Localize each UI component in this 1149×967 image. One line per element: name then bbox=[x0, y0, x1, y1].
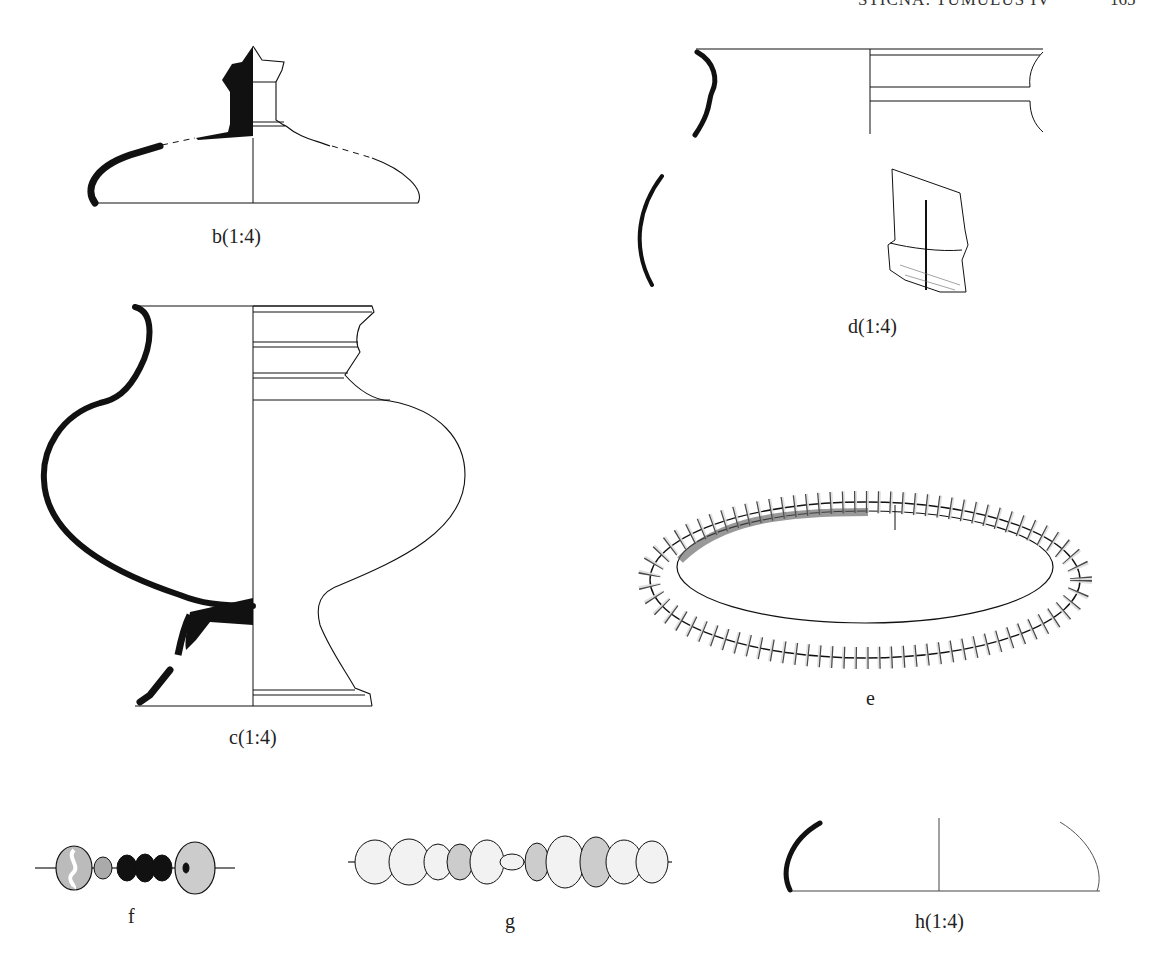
plate-drawings bbox=[0, 0, 1149, 967]
figure-d-fragments-drawing bbox=[640, 49, 1043, 292]
figure-g-caption: g bbox=[505, 910, 515, 933]
figure-b-lid-drawing bbox=[91, 46, 420, 203]
figure-d-caption: d(1:4) bbox=[848, 315, 897, 338]
figure-b-caption: b(1:4) bbox=[212, 225, 261, 248]
figure-h-bowl-drawing bbox=[786, 818, 1100, 891]
figure-g-beads-drawing bbox=[348, 836, 672, 888]
figure-c-vessel-drawing bbox=[44, 306, 465, 706]
figure-f-caption: f bbox=[128, 905, 135, 928]
figure-h-caption: h(1:4) bbox=[915, 910, 964, 933]
figure-c-caption: c(1:4) bbox=[229, 726, 277, 749]
figure-e-ring-drawing bbox=[649, 502, 1081, 658]
figure-e-caption: e bbox=[866, 687, 875, 710]
figure-f-beads-drawing bbox=[35, 842, 235, 894]
